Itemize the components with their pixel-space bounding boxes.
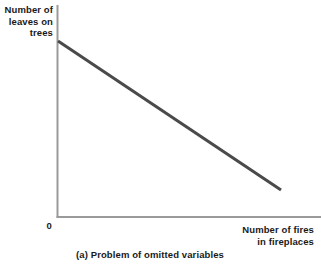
x-axis-label: Number of fires in fireplaces: [210, 224, 314, 247]
figure-panel: Number of leaves on trees Number of fire…: [0, 0, 321, 267]
figure-caption: (a) Problem of omitted variables: [0, 249, 300, 260]
y-axis-label: Number of leaves on trees: [0, 4, 53, 39]
origin-tick-label: 0: [40, 220, 52, 232]
data-line-series-1: [58, 41, 281, 190]
